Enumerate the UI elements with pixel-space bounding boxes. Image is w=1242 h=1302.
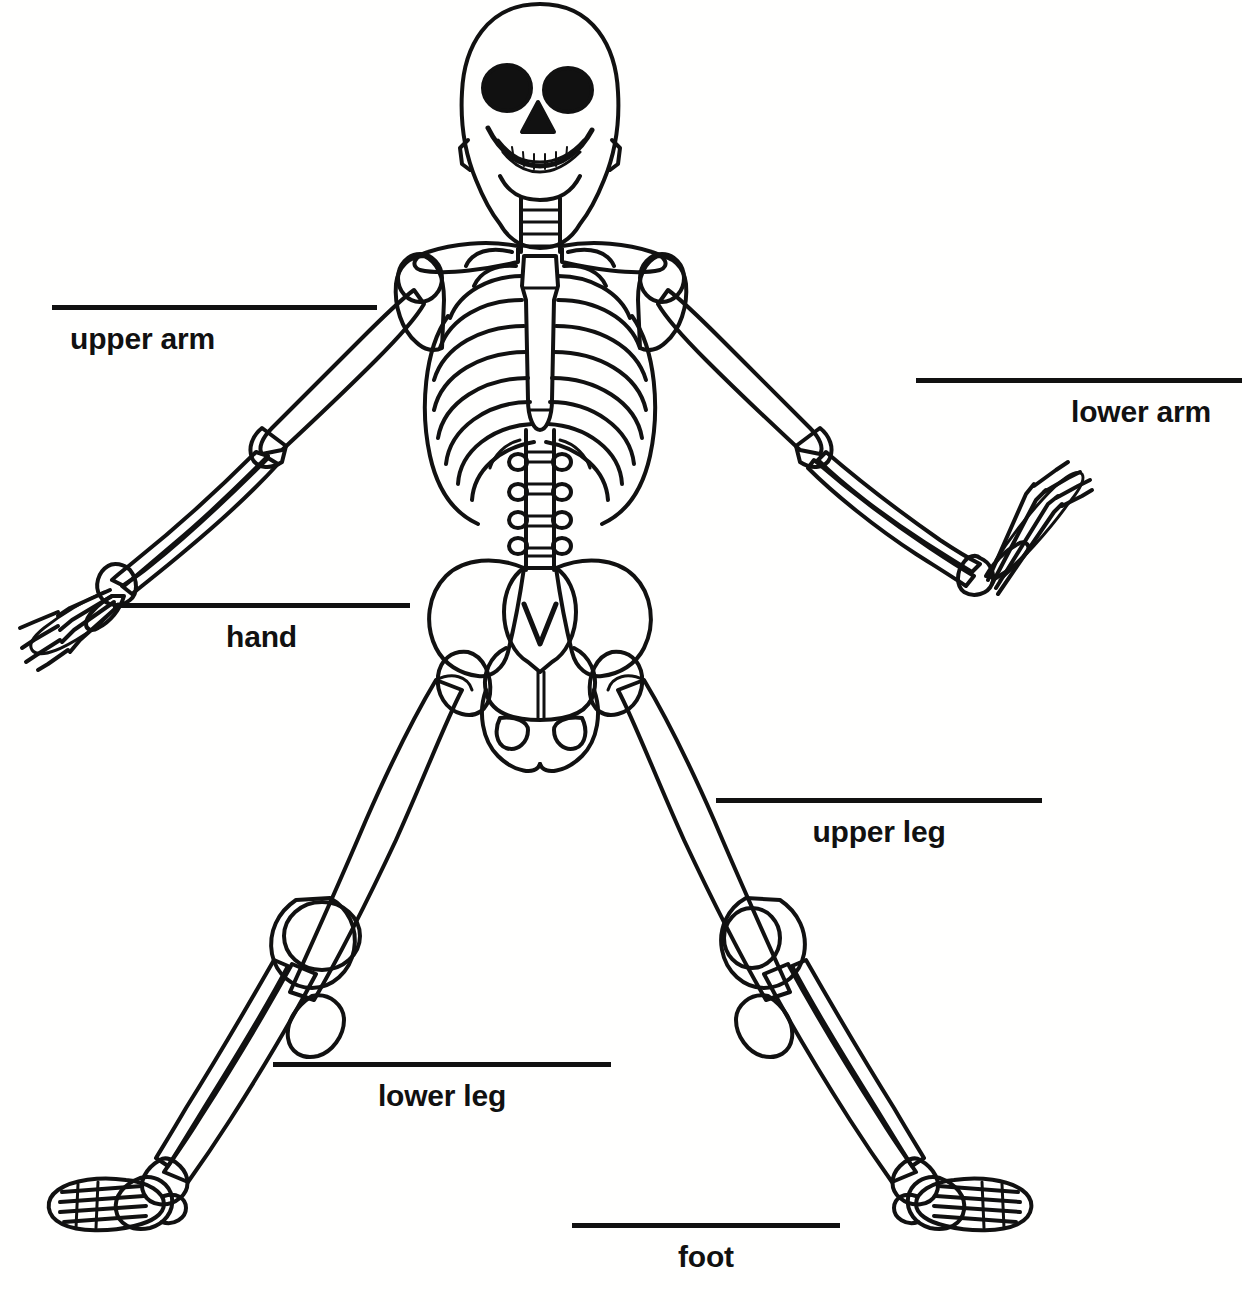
label-lower-leg: lower leg bbox=[273, 1081, 611, 1111]
callout-lower-arm: lower arm bbox=[916, 378, 1242, 427]
callout-lower-leg: lower leg bbox=[273, 1062, 611, 1111]
eye-socket-left bbox=[483, 65, 531, 111]
metatarsals-right bbox=[934, 1186, 1020, 1222]
callout-hand: hand bbox=[113, 603, 410, 652]
answer-line-upper-arm[interactable] bbox=[52, 305, 377, 310]
lumbar-vertebra-lines bbox=[526, 452, 554, 556]
label-lower-arm: lower arm bbox=[978, 397, 1242, 427]
transverse-processes bbox=[509, 454, 571, 554]
skeleton-labeling-worksheet: upper arm lower arm hand upper leg lower… bbox=[0, 0, 1242, 1302]
tibia-right bbox=[764, 964, 916, 1182]
eye-socket-right bbox=[544, 68, 592, 112]
humeral-head-left bbox=[398, 254, 442, 302]
ulna-left bbox=[122, 458, 278, 594]
distal-femur-left bbox=[288, 995, 344, 1057]
phalanges-left bbox=[20, 612, 68, 670]
femur-left bbox=[290, 680, 462, 1000]
metatarsals-left bbox=[60, 1186, 146, 1222]
callout-upper-arm: upper arm bbox=[52, 305, 377, 354]
radius-right bbox=[818, 452, 980, 572]
radius-left bbox=[112, 452, 268, 586]
answer-line-lower-leg[interactable] bbox=[273, 1062, 611, 1067]
ulna-right bbox=[808, 460, 974, 586]
pubic-symphysis bbox=[538, 672, 544, 718]
leg-left bbox=[49, 676, 472, 1230]
arm-right bbox=[658, 290, 1092, 595]
label-upper-leg: upper leg bbox=[716, 817, 1042, 847]
cervical-vertebrae-lines bbox=[521, 210, 560, 246]
answer-line-foot[interactable] bbox=[572, 1223, 840, 1228]
mandible bbox=[500, 176, 580, 200]
callout-foot: foot bbox=[572, 1223, 840, 1272]
label-hand: hand bbox=[113, 622, 410, 652]
coccyx bbox=[524, 604, 556, 644]
pubis bbox=[485, 648, 595, 720]
pelvis bbox=[429, 560, 651, 771]
obturator-foramen-right bbox=[554, 718, 585, 749]
leg-right bbox=[608, 676, 1031, 1230]
elbow-left bbox=[250, 428, 286, 467]
label-foot: foot bbox=[572, 1242, 840, 1272]
callout-upper-leg: upper leg bbox=[716, 798, 1042, 847]
label-upper-arm: upper arm bbox=[0, 324, 305, 354]
obturator-foramen-left bbox=[497, 718, 528, 749]
answer-line-upper-leg[interactable] bbox=[716, 798, 1042, 803]
answer-line-lower-arm[interactable] bbox=[916, 378, 1242, 383]
humeral-head-right bbox=[640, 254, 684, 302]
answer-line-hand[interactable] bbox=[113, 603, 410, 608]
distal-femur-right bbox=[736, 995, 792, 1057]
